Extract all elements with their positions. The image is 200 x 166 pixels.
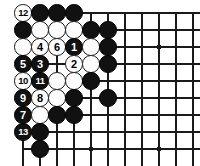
star-point [89,147,93,151]
grid-lines [23,13,200,166]
star-point [157,147,161,151]
star-point [157,45,161,49]
board-grid [0,0,200,166]
go-board-diagram: 12461532101198713 [0,0,200,166]
